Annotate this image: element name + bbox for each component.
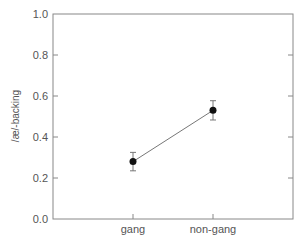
y-tick-label: 0.8 [33, 49, 48, 61]
y-tick-label: 0.0 [33, 213, 48, 225]
data-point [130, 158, 137, 165]
y-axis-title: /æ/-backing [10, 90, 21, 142]
x-axis: gangnon-gang [121, 214, 236, 235]
data-point [210, 107, 217, 114]
data-series [130, 101, 217, 171]
x-tick-label: non-gang [190, 223, 237, 235]
y-tick-label: 0.2 [33, 172, 48, 184]
chart: 0.00.20.40.60.81.0 gangnon-gang /æ/-back… [0, 0, 308, 245]
x-tick-label: gang [121, 223, 145, 235]
y-tick-label: 1.0 [33, 8, 48, 20]
series-line [133, 110, 213, 161]
y-tick-label: 0.6 [33, 90, 48, 102]
y-axis: 0.00.20.40.60.81.0 [33, 8, 293, 225]
plot-frame [53, 14, 293, 219]
y-tick-label: 0.4 [33, 131, 48, 143]
